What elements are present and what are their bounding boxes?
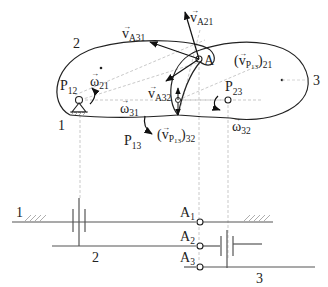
- svg-text:→: →: [149, 82, 157, 91]
- vp13-21-label: (vP13)21 →: [234, 49, 272, 71]
- link-3-label: 3: [313, 73, 320, 88]
- w32-label: ω32 →: [232, 114, 251, 136]
- omega21-rotation-icon: [90, 88, 95, 104]
- point-p23: [225, 97, 231, 103]
- link-1-label: 1: [58, 118, 65, 133]
- link-2-label: 2: [73, 36, 80, 51]
- a1-label: A1: [180, 205, 195, 222]
- ground-label-1: 1: [16, 205, 23, 220]
- svg-text:→: →: [233, 114, 241, 123]
- ground-hatch-right: [244, 215, 270, 221]
- svg-text:→: →: [91, 69, 99, 78]
- link-2-body: [57, 41, 214, 115]
- kinematic-diagram: 2 3 1 A P12 P13 P23 vA31 → vA21 → vA32 →…: [0, 0, 328, 287]
- p23-label: P23: [225, 79, 243, 97]
- svg-text:P13: P13: [124, 133, 142, 151]
- svg-text:→: →: [191, 6, 199, 15]
- svg-text:P23: P23: [225, 79, 243, 97]
- w21-label: ω21 →: [90, 69, 109, 91]
- point-a3: [197, 264, 203, 270]
- va21-label: vA21 →: [190, 6, 214, 27]
- w31-label: ω31 →: [120, 96, 139, 118]
- omega31-rotation-icon: [144, 116, 152, 134]
- p12-label: P12: [60, 78, 78, 96]
- shaft-2-label: 2: [92, 250, 99, 265]
- va32-label: vA32 →: [148, 82, 172, 103]
- a2-label: A2: [180, 229, 195, 246]
- svg-text:P12: P12: [60, 78, 78, 96]
- p12-ground-pivot: [70, 97, 88, 116]
- svg-text:→: →: [123, 22, 131, 31]
- point-a-label: A: [204, 53, 215, 68]
- point-a1: [197, 219, 203, 225]
- omega32-rotation-icon: [214, 96, 220, 110]
- point-a2: [197, 243, 203, 249]
- shaft-3-label: 3: [256, 271, 263, 286]
- ground-hatch-left: [25, 215, 46, 221]
- svg-text:→: →: [162, 123, 170, 132]
- svg-text:→: →: [121, 96, 129, 105]
- svg-text:→: →: [239, 49, 247, 58]
- vp13-32-label: (vP13)32 →: [157, 123, 195, 145]
- bottom-schematic: 1 2 3 A1 A2 A3: [12, 198, 315, 286]
- vector-va31-arrow: [150, 42, 199, 59]
- a3-label: A3: [180, 250, 195, 267]
- va31-label: vA31 →: [122, 22, 146, 43]
- p13-label: P13: [124, 133, 142, 151]
